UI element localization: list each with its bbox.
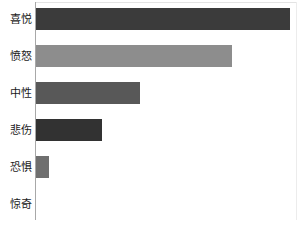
bar-rect	[36, 119, 102, 141]
bar-row: 悲伤	[0, 119, 298, 141]
bar-category-label: 愤怒	[0, 45, 32, 67]
bar-category-label: 中性	[0, 82, 32, 104]
y-axis-line	[35, 2, 36, 220]
bar-row: 喜悦	[0, 8, 298, 30]
bar-row: 愤怒	[0, 45, 298, 67]
bar-row: 中性	[0, 82, 298, 104]
bar-rect	[36, 156, 49, 178]
plot-frame-right-line	[296, 2, 297, 220]
bar-row: 恐惧	[0, 156, 298, 178]
bar-rect	[36, 45, 232, 67]
bar-row: 惊奇	[0, 193, 298, 215]
plot-frame-top-line	[36, 2, 296, 3]
bar-rect	[36, 82, 140, 104]
bar-category-label: 恐惧	[0, 156, 32, 178]
bar-category-label: 喜悦	[0, 8, 32, 30]
bar-category-label: 悲伤	[0, 119, 32, 141]
bar-rect	[36, 8, 290, 30]
bar-chart: 喜悦愤怒中性悲伤恐惧惊奇	[0, 0, 298, 231]
bar-category-label: 惊奇	[0, 193, 32, 215]
